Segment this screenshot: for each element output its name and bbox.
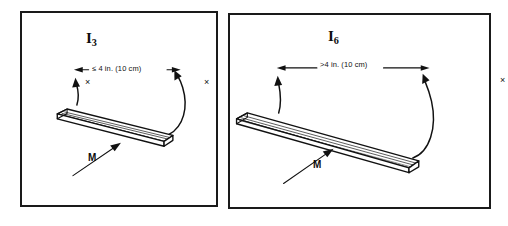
x-mark-left: × — [500, 76, 505, 85]
rotation-arrow-right — [413, 74, 434, 158]
dimension-label-i6: >4 in. (10 cm) — [320, 60, 367, 69]
panel-i6: × × — [228, 13, 491, 209]
moment-label-i6: M — [313, 159, 321, 170]
rotation-arrow-left — [274, 76, 282, 113]
dimension-arrow-right — [384, 65, 430, 70]
spec-label-i6-subscript: 6 — [334, 35, 339, 46]
panel-i3-drawing — [22, 13, 216, 205]
moment-label-i3: M — [88, 152, 96, 163]
spec-label-i3: I3 — [86, 30, 97, 48]
x-mark-left: × — [85, 78, 90, 87]
moment-arrow — [284, 149, 334, 184]
moment-arrow — [73, 143, 121, 176]
plank-body — [57, 109, 173, 146]
dimension-arrow-right — [167, 67, 181, 72]
dimension-arrow-left — [74, 67, 89, 72]
rotation-arrow-left — [72, 78, 80, 105]
x-mark-right: × — [204, 78, 209, 87]
panel-i3: × × — [20, 11, 218, 207]
plank-body — [237, 113, 419, 173]
spec-label-i6: I6 — [328, 28, 339, 46]
dimension-arrow-left — [277, 65, 317, 70]
panel-i6-drawing — [230, 15, 489, 207]
spec-label-i3-subscript: 3 — [92, 37, 97, 48]
figure-root: × × — [0, 0, 508, 226]
dimension-label-i3: ≤ 4 in. (10 cm) — [92, 64, 141, 73]
rotation-arrow-right — [169, 70, 185, 134]
